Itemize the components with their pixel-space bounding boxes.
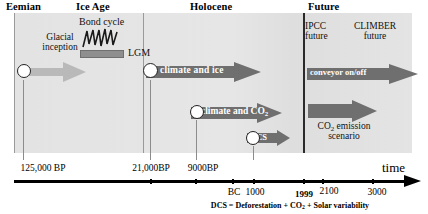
leader-line-9000bp xyxy=(196,120,197,160)
lgm-label: LGM xyxy=(128,48,150,58)
era-future-heading: Future xyxy=(308,1,339,12)
time-axis-line xyxy=(14,180,408,183)
arrow-co2-emission xyxy=(308,100,378,122)
tick-label-125000bp: 125,000 BP xyxy=(21,163,66,173)
tick-label-21000bp: 21,000BP xyxy=(132,163,170,173)
separator-iceage-holocene xyxy=(143,13,144,153)
tick-mark-bc xyxy=(232,179,234,184)
tick-label-3000: 3000 xyxy=(368,187,387,197)
event-marker-21000bp xyxy=(143,63,158,78)
leader-line-1000ad xyxy=(253,146,254,160)
arrow-climate-and-co2-label: climate and CO2 xyxy=(201,107,268,117)
arrow-climate-and-ice-label: climate and ice xyxy=(160,66,224,76)
tick-mark-1000 xyxy=(253,179,255,184)
arrow-conveyor-label: conveyor on/off xyxy=(310,68,366,77)
climber-future-label: CLIMBER future xyxy=(344,22,406,41)
figure-canvas: Eemian Ice Age Holocene Future Bond cycl… xyxy=(0,0,428,214)
event-marker-125000bp xyxy=(17,64,31,78)
bond-cycle-label: Bond cycle xyxy=(79,17,124,27)
glacial-inception-line2: inception xyxy=(42,42,77,52)
tick-label-bc: BC xyxy=(228,187,241,197)
ipcc-future-line2: future xyxy=(305,31,328,41)
dcs-footnote: DCS = Deforestation + CO2 + Solar variab… xyxy=(211,201,369,210)
tick-mark-9000bp xyxy=(195,179,197,184)
tick-label-2100: 2100 xyxy=(320,186,339,196)
event-marker-1000ad xyxy=(246,131,260,145)
time-axis-arrowhead-icon xyxy=(404,174,422,188)
tick-mark-21000bp xyxy=(150,179,152,184)
time-axis-label: time xyxy=(382,160,405,176)
event-marker-9000bp xyxy=(190,105,204,119)
tick-mark-3000 xyxy=(372,179,374,184)
ipcc-future-label: IPCC future xyxy=(305,22,328,41)
tick-label-1999: 1999 xyxy=(295,189,313,199)
climber-future-line1: CLIMBER xyxy=(354,21,396,31)
era-ice-age-heading: Ice Age xyxy=(76,1,110,12)
ipcc-future-line1: IPCC xyxy=(305,21,326,31)
era-holocene-heading: Holocene xyxy=(190,1,232,12)
co2-emission-scenario-label: CO2 emissionscenario xyxy=(304,122,384,142)
arrow-glacial-inception xyxy=(25,62,87,82)
era-eemian-heading: Eemian xyxy=(6,1,41,12)
tick-mark-1999 xyxy=(303,179,305,184)
separator-eemian-left xyxy=(14,13,15,153)
climber-future-line2: future xyxy=(364,31,387,41)
glacial-inception-line1: Glacial xyxy=(46,32,73,42)
leader-line-21000bp xyxy=(150,80,151,160)
tick-label-1000: 1000 xyxy=(246,187,265,197)
tick-mark-2100 xyxy=(322,179,324,184)
glacial-inception-label: Glacial inception xyxy=(32,33,88,52)
leader-line-125000bp xyxy=(23,80,24,160)
tick-label-9000bp: 9000BP xyxy=(188,163,219,173)
